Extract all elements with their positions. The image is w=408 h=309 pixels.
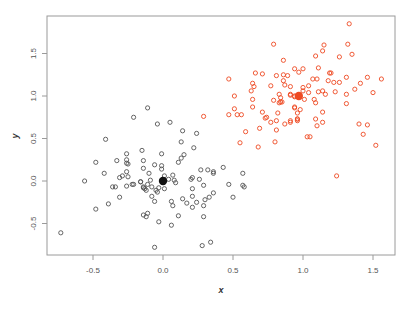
x-axis: -0.50.00.51.01.5 [86, 255, 379, 275]
centroid-marker-cluster-2 [295, 92, 303, 100]
x-tick-label: 0.0 [157, 266, 169, 275]
y-axis-title: y [10, 133, 20, 140]
y-tick-label: -0.5 [29, 216, 38, 230]
x-tick-label: 0.5 [227, 266, 239, 275]
y-axis: -0.50.00.51.01.5 [29, 47, 47, 230]
plot-frame [47, 16, 395, 255]
scatter-plot-svg: -0.50.00.51.01.5 -0.50.00.51.01.5 x y [0, 0, 408, 309]
y-tick-label: 1.5 [29, 47, 38, 59]
x-tick-label: 1.0 [297, 266, 309, 275]
y-tick-label: 0.0 [29, 175, 38, 187]
scatter-chart: -0.50.00.51.01.5 -0.50.00.51.01.5 x y [0, 0, 408, 309]
x-tick-label: 1.5 [367, 266, 379, 275]
y-tick-label: 1.0 [29, 90, 38, 102]
x-axis-title: x [217, 285, 224, 295]
y-tick-label: 0.5 [29, 132, 38, 144]
centroid-marker-cluster-1 [159, 177, 167, 185]
x-tick-label: -0.5 [86, 266, 100, 275]
